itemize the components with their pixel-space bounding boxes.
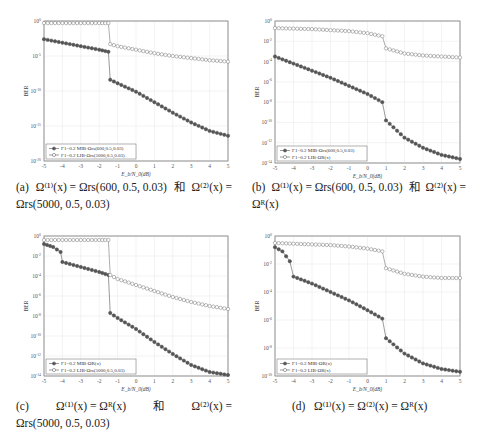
x-tick-label: 0 xyxy=(366,378,369,384)
y-axis-label: BER xyxy=(23,300,29,311)
x-tick-label: 1 xyxy=(153,378,156,384)
legend: Γ1=0.2 MIB-Ωrs(600,0.5,0.03)Γ1=0.2 LIB-Ω… xyxy=(277,146,367,161)
x-axis-label: E_b/N_0(dB) xyxy=(352,386,382,393)
caption-c-conj: 和 xyxy=(153,398,164,415)
y-axis-label: BER xyxy=(254,300,260,311)
x-tick-label: -4 xyxy=(291,378,296,384)
x-tick-label: 3 xyxy=(190,378,193,384)
x-tick-label: -5 xyxy=(273,378,278,384)
x-tick-label: 2 xyxy=(403,165,406,171)
legend-entry: Γ1=0.2 MIB-ΩR(x) xyxy=(61,361,101,366)
caption-a-label: (a) xyxy=(16,179,29,196)
caption-b-label: (b) xyxy=(252,179,265,196)
x-tick-label: 2 xyxy=(171,163,174,169)
x-tick-label: 3 xyxy=(422,378,425,384)
chart-panel-c: -5-4-3-2-101234510010-210-410-610-810-10… xyxy=(0,222,240,397)
y-tick-label: 10-5 xyxy=(32,53,41,60)
x-tick-label: -5 xyxy=(273,165,278,171)
caption-a-rhs: Ω⁽²⁾(x) = xyxy=(192,179,232,196)
x-tick-label: -2 xyxy=(97,378,102,384)
y-tick-label: 10-10 xyxy=(261,119,272,126)
y-tick-label: 10-8 xyxy=(263,345,272,352)
caption-c-line2: Ωrs(5000, 0.5, 0.03) xyxy=(16,415,232,432)
x-tick-label: 1 xyxy=(385,165,388,171)
caption-d-text: Ω⁽¹⁾(x) = Ω⁽²⁾(x) = Ωᴿ(x) xyxy=(314,400,427,412)
x-tick-label: 4 xyxy=(440,378,443,384)
x-tick-label: 5 xyxy=(459,165,462,171)
y-tick-label: 10-12 xyxy=(261,139,272,146)
y-tick-label: 10-4 xyxy=(263,58,272,64)
chart-panel-a: -5-4-3-2-101234510010-510-1010-1510-20E_… xyxy=(0,0,240,175)
y-tick-label: 10-10 xyxy=(30,333,41,340)
x-tick-label: -1 xyxy=(347,378,352,384)
x-tick-label: 2 xyxy=(403,378,406,384)
x-axis-label: E_b/N_0(dB) xyxy=(120,386,150,393)
y-tick-label: 10-6 xyxy=(263,317,272,324)
ber-chart-c: -5-4-3-2-101234510010-210-410-610-810-10… xyxy=(0,222,240,397)
x-tick-label: 1 xyxy=(153,163,156,169)
chart-panel-b: -5-4-3-2-101234510010-210-410-610-810-10… xyxy=(240,0,481,175)
y-tick-label: 10-20 xyxy=(30,158,41,165)
caption-d: (d) Ω⁽¹⁾(x) = Ω⁽²⁾(x) = Ωᴿ(x) xyxy=(292,398,427,415)
x-tick-label: 0 xyxy=(135,163,138,169)
y-tick-label: 10-8 xyxy=(32,313,41,320)
x-tick-label: 3 xyxy=(422,165,425,171)
caption-a-line2: Ωrs(5000, 0.5, 0.03) xyxy=(16,196,232,213)
legend-entry: Γ1=0.2 LIB-ΩR(x) xyxy=(292,368,331,373)
x-tick-label: -4 xyxy=(60,163,65,169)
chart-panel-d: -5-4-3-2-101234510010-210-410-610-810-10… xyxy=(240,222,481,397)
x-tick-label: -1 xyxy=(115,378,120,384)
x-tick-label: -3 xyxy=(310,378,315,384)
x-axis-label: E_b/N_0(dB) xyxy=(120,171,150,178)
x-tick-label: 4 xyxy=(208,163,211,169)
legend: Γ1=0.2 MIB-Ωrs(600,0.5,0.03)Γ1=0.2 LIB-Ω… xyxy=(46,144,136,159)
y-tick-label: 10-2 xyxy=(32,253,41,260)
x-tick-label: -5 xyxy=(42,378,47,384)
caption-b-line2: Ωᴿ(x) xyxy=(252,196,466,213)
y-tick-label: 10-2 xyxy=(263,38,272,45)
x-tick-label: 5 xyxy=(227,163,230,169)
x-tick-label: -4 xyxy=(60,378,65,384)
x-tick-label: -2 xyxy=(97,163,102,169)
x-tick-label: 2 xyxy=(171,378,174,384)
y-tick-label: 10-10 xyxy=(261,373,272,380)
legend: Γ1=0.2 MIB-ΩR(x)Γ1=0.2 LIB-ΩR(x) xyxy=(277,359,367,374)
y-tick-label: 100 xyxy=(265,18,273,25)
caption-b: (b) Ω⁽¹⁾(x) = Ωrs(600, 0.5, 0.03) 和 Ω⁽²⁾… xyxy=(252,179,466,213)
x-tick-label: -2 xyxy=(328,165,333,171)
x-tick-label: 3 xyxy=(190,163,193,169)
y-tick-label: 10-8 xyxy=(263,99,272,106)
caption-a-lhs: Ω⁽¹⁾(x) = Ωrs(600, 0.5, 0.03) xyxy=(36,179,167,196)
caption-c: (c) Ω⁽¹⁾(x) = Ωᴿ(x) 和 Ω⁽²⁾(x) = Ωrs(5000… xyxy=(16,398,232,432)
x-tick-label: -3 xyxy=(79,378,84,384)
y-tick-label: 10-2 xyxy=(263,261,272,268)
x-tick-label: -3 xyxy=(310,165,315,171)
legend-entry: Γ1=0.2 MIB-ΩR(x) xyxy=(292,361,332,366)
ber-chart-a: -5-4-3-2-101234510010-510-1010-1510-20E_… xyxy=(0,0,240,175)
ber-chart-d: -5-4-3-2-101234510010-210-410-610-810-10… xyxy=(240,222,481,397)
caption-d-label: (d) xyxy=(292,400,305,412)
x-tick-label: 5 xyxy=(459,378,462,384)
x-tick-label: 5 xyxy=(227,378,230,384)
caption-a-conj: 和 xyxy=(174,179,185,196)
caption-a: (a) Ω⁽¹⁾(x) = Ωrs(600, 0.5, 0.03) 和 Ω⁽²⁾… xyxy=(16,179,232,213)
y-tick-label: 10-4 xyxy=(32,273,41,280)
x-tick-label: -2 xyxy=(328,378,333,384)
y-tick-label: 10-14 xyxy=(30,373,41,380)
y-tick-label: 10-12 xyxy=(30,353,41,360)
caption-c-lhs: Ω⁽¹⁾(x) = Ωᴿ(x) xyxy=(56,398,126,415)
legend: Γ1=0.2 MIB-ΩR(x)Γ1=0.2 LIB-Ωrs(5000,0.5,… xyxy=(46,359,136,374)
x-tick-label: 1 xyxy=(385,378,388,384)
y-tick-label: 10-15 xyxy=(30,123,41,130)
y-tick-label: 10-4 xyxy=(263,289,272,296)
x-tick-label: 4 xyxy=(208,378,211,384)
y-axis-label: BER xyxy=(254,86,260,97)
caption-c-rhs: Ω⁽²⁾(x) = xyxy=(192,398,232,415)
x-tick-label: 0 xyxy=(135,378,138,384)
x-tick-label: -5 xyxy=(42,163,47,169)
ber-chart-b: -5-4-3-2-101234510010-210-410-610-810-10… xyxy=(240,0,481,175)
caption-b-conj: 和 xyxy=(409,179,420,196)
y-tick-label: 10-14 xyxy=(261,160,272,167)
y-axis-label: BER xyxy=(23,85,29,96)
y-tick-label: 100 xyxy=(34,233,42,240)
